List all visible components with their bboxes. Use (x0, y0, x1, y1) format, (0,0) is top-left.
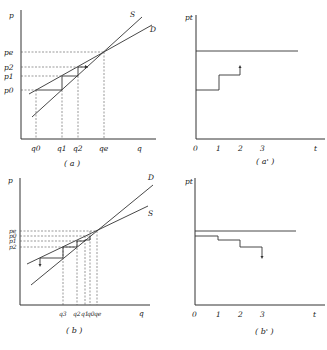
tick-2: 2 (237, 144, 243, 153)
arrow-icon (85, 65, 88, 69)
price-label-pe: pe (4, 48, 14, 57)
price-path (196, 67, 240, 90)
caption-b: ( b ) (66, 326, 82, 335)
demand-curve (31, 185, 153, 285)
supply-curve (27, 206, 148, 264)
qty-label-q0: q0 (31, 144, 41, 153)
t-axis-label: t (313, 310, 317, 319)
panel-a-prime: pt 0 1 2 3 t ( a' ) (185, 13, 325, 166)
price-label-p0: p0 (4, 86, 14, 95)
qty-label-q1: q1 (57, 144, 67, 153)
qty-label-q2: q2 (73, 144, 83, 153)
arrow-icon (39, 264, 42, 267)
tick-2: 2 (237, 310, 243, 319)
arrow-icon (239, 65, 242, 68)
supply-label: S (148, 209, 153, 218)
pt-axis-label: pt (185, 13, 194, 22)
qty-label-q3: q3 (59, 310, 67, 318)
demand-label: D (149, 25, 156, 34)
caption-a: ( a ) (64, 159, 80, 168)
qty-label-q2: q2 (73, 310, 81, 318)
p-axis-label: p (9, 11, 14, 20)
q-axis-label: q (139, 309, 144, 318)
t-axis-label: t (314, 144, 318, 153)
cobweb-path (36, 67, 88, 90)
price-label-p2: p2 (9, 243, 17, 251)
diagram-canvas: p S D pe p2 p1 p0 q0 q1 q2 qe q ( a ) pt (0, 0, 327, 350)
tick-1: 1 (216, 310, 221, 319)
q-axis-label: q (137, 144, 142, 153)
demand-label: D (147, 173, 154, 182)
price-label-p1: p1 (4, 72, 14, 81)
qty-label-qe: qe (99, 144, 109, 153)
qty-label-qe: qe (94, 310, 102, 318)
panel-b: p D S pe p0 p1 p2 q3 q2 q1 q0 qe q ( b ) (8, 173, 154, 335)
tick-3: 3 (260, 144, 265, 153)
tick-0: 0 (192, 310, 197, 319)
panel-b-prime: pt 0 1 2 3 t ( b' ) (185, 177, 325, 336)
arrow-icon (261, 256, 264, 259)
tick-0: 0 (193, 144, 198, 153)
cobweb-path (40, 236, 90, 258)
panel-a: p S D pe p2 p1 p0 q0 q1 q2 qe q ( a ) (4, 10, 156, 168)
price-label-p2: p2 (4, 63, 14, 72)
pt-axis-label: pt (185, 177, 194, 186)
caption-b-prime: ( b' ) (255, 327, 274, 336)
caption-a-prime: ( a' ) (256, 157, 274, 166)
supply-label: S (130, 10, 135, 19)
demand-curve (29, 25, 152, 94)
price-path (195, 236, 262, 257)
p-axis-label: p (8, 176, 13, 185)
tick-3: 3 (260, 310, 265, 319)
tick-1: 1 (216, 144, 221, 153)
